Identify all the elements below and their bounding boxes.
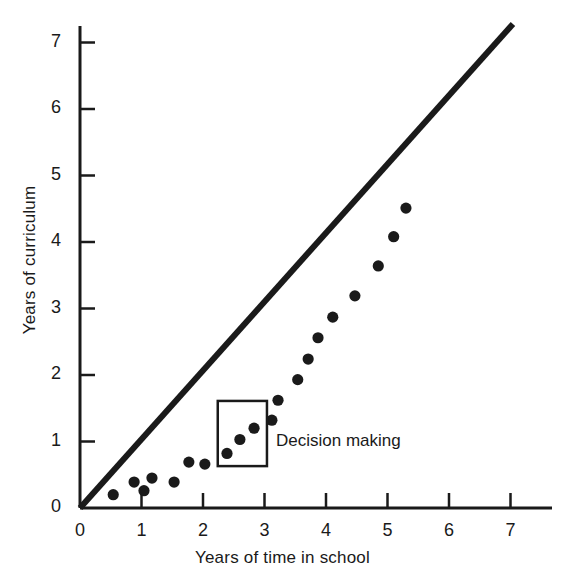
data-point (327, 312, 338, 323)
y-tick-label-1: 1 (44, 430, 68, 451)
decision-making-label: Decision making (276, 431, 401, 451)
data-point (349, 290, 360, 301)
x-tick-label-7: 7 (499, 520, 523, 541)
x-axis-title: Years of time in school (0, 548, 565, 568)
y-axis-title: Years of curriculum (20, 150, 40, 370)
x-tick-label-0: 0 (68, 520, 92, 541)
x-tick-label-6: 6 (437, 520, 461, 541)
x-tick-label-1: 1 (130, 520, 154, 541)
data-point (221, 448, 232, 459)
data-point (248, 423, 259, 434)
data-point (138, 485, 149, 496)
y-axis-ticks (80, 43, 95, 442)
data-point (373, 260, 384, 271)
y-tick-label-4: 4 (44, 230, 68, 251)
data-point (292, 374, 303, 385)
data-point (168, 476, 179, 487)
y-tick-label-5: 5 (44, 164, 68, 185)
chart-plot-area (0, 0, 565, 582)
y-tick-label-6: 6 (44, 97, 68, 118)
data-point (199, 459, 210, 470)
data-point (388, 231, 399, 242)
x-tick-label-3: 3 (253, 520, 277, 541)
y-tick-label-7: 7 (44, 31, 68, 52)
x-tick-label-4: 4 (314, 520, 338, 541)
data-point (108, 489, 119, 500)
y-tick-label-2: 2 (44, 363, 68, 384)
scatter-chart-figure: 01234567 01234567 Decision making Years … (0, 0, 565, 582)
data-point-markers (108, 202, 412, 500)
y-axis-title-wrapper: Years of curriculum (20, 150, 44, 370)
data-point (312, 332, 323, 343)
data-point (146, 472, 157, 483)
y-tick-label-3: 3 (44, 297, 68, 318)
data-point (129, 476, 140, 487)
data-point (400, 202, 411, 213)
y-tick-label-0: 0 (44, 496, 68, 517)
data-point (272, 395, 283, 406)
data-point (303, 353, 314, 364)
x-tick-label-2: 2 (191, 520, 215, 541)
x-axis-ticks (142, 493, 511, 508)
data-point (183, 457, 194, 468)
data-point (234, 434, 245, 445)
x-tick-label-5: 5 (376, 520, 400, 541)
